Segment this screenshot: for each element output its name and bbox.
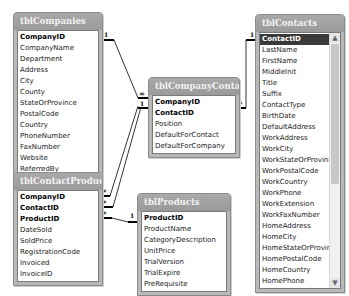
rel-companycontacts-contactproducts[interactable] xyxy=(102,106,148,207)
field-item[interactable]: HomePhone xyxy=(260,276,329,287)
field-item[interactable]: DefaultAddress xyxy=(260,122,329,133)
field-item[interactable]: ContactType xyxy=(260,100,329,111)
table-products[interactable]: tblProducts ProductID ProductName Catego… xyxy=(137,193,231,296)
vertical-scrollbar[interactable]: ▲ ▼ xyxy=(329,33,340,288)
field-item[interactable]: HomeCity xyxy=(260,232,329,243)
field-item[interactable]: TrialVersion xyxy=(142,257,226,268)
field-item[interactable]: TrialExpire xyxy=(142,268,226,279)
rel-products-contactproducts[interactable] xyxy=(102,218,140,222)
field-item[interactable]: CompanyName xyxy=(18,43,98,54)
table-title[interactable]: tblProducts xyxy=(138,194,230,211)
cardinality-many-label: ∞ xyxy=(139,91,145,97)
field-item[interactable]: City xyxy=(18,76,98,87)
field-item[interactable]: FirstName xyxy=(260,56,329,67)
field-list: CompanyID ContactID ProductID DateSold S… xyxy=(17,190,99,282)
field-item[interactable]: CompanyID xyxy=(153,97,235,108)
field-item[interactable]: ContactID xyxy=(153,108,235,119)
field-item[interactable]: ContactID xyxy=(18,203,98,214)
field-item[interactable]: LastName xyxy=(260,45,329,56)
table-title[interactable]: tblContacts xyxy=(256,15,344,32)
table-contact-products[interactable]: tblContactProducts CompanyID ContactID P… xyxy=(13,172,103,286)
field-item[interactable]: HomeAddress xyxy=(260,221,329,232)
field-item[interactable]: CompanyID xyxy=(18,192,98,203)
field-item[interactable]: WorkCountry xyxy=(260,177,329,188)
field-item[interactable]: WorkStateOrProvince xyxy=(260,155,329,166)
field-item[interactable]: WorkAddress xyxy=(260,133,329,144)
field-item[interactable]: ProductID xyxy=(18,214,98,225)
field-item-selected[interactable]: ContactID xyxy=(260,34,329,45)
field-item[interactable]: CompanyID xyxy=(18,32,98,43)
table-title[interactable]: tblCompanyContacts xyxy=(149,78,239,95)
cardinality-one-label: 1 xyxy=(130,213,134,219)
field-item[interactable]: Country xyxy=(18,120,98,131)
field-item[interactable]: PostalCode xyxy=(18,109,98,120)
field-item[interactable]: RegistrationCode xyxy=(18,247,98,258)
field-item[interactable]: FaxNumber xyxy=(18,142,98,153)
field-item[interactable]: UnitPrice xyxy=(142,246,226,257)
field-item[interactable]: PreRequisite xyxy=(142,279,226,290)
field-list: ContactID LastName FirstName MiddleInit … xyxy=(259,32,341,289)
field-item[interactable]: WorkFaxNumber xyxy=(260,210,329,221)
field-item[interactable]: Address xyxy=(18,65,98,76)
field-item[interactable]: ProductID xyxy=(142,213,226,224)
table-contacts[interactable]: tblContacts ContactID LastName FirstName… xyxy=(255,14,345,293)
scroll-down-icon[interactable]: ▼ xyxy=(330,278,340,288)
field-item[interactable]: WorkCity xyxy=(260,144,329,155)
field-item[interactable]: HomeCountry xyxy=(260,265,329,276)
cardinality-one-label: 1 xyxy=(250,32,254,38)
field-item[interactable]: WorkExtension xyxy=(260,199,329,210)
field-item[interactable]: Title xyxy=(260,78,329,89)
field-item[interactable]: MiddleInit xyxy=(260,67,329,78)
field-item[interactable]: County xyxy=(18,87,98,98)
field-item[interactable]: DateSold xyxy=(18,225,98,236)
field-item[interactable]: WorkPostalCode xyxy=(260,166,329,177)
field-item[interactable]: Invoiced xyxy=(18,258,98,269)
field-item[interactable]: StateOrProvince xyxy=(18,98,98,109)
scroll-up-icon[interactable]: ▲ xyxy=(330,33,340,43)
table-title[interactable]: tblCompanies xyxy=(14,13,102,30)
scroll-thumb[interactable] xyxy=(331,44,339,184)
field-item[interactable]: Department xyxy=(18,54,98,65)
field-item[interactable]: CategoryDescription xyxy=(142,235,226,246)
field-item[interactable]: Position xyxy=(153,119,235,130)
field-item[interactable]: Suffix xyxy=(260,89,329,100)
field-item[interactable]: SoldPrice xyxy=(18,236,98,247)
cardinality-one-label: 1 xyxy=(140,101,144,107)
table-title[interactable]: tblContactProducts xyxy=(14,173,102,190)
field-item[interactable]: DefaultForContact xyxy=(153,130,235,141)
table-companies[interactable]: tblCompanies CompanyID CompanyName Depar… xyxy=(13,12,103,181)
field-item[interactable]: DefaultForCompany xyxy=(153,141,235,152)
field-item[interactable]: HomeStateOrProvince xyxy=(260,243,329,254)
field-item[interactable]: ProductName xyxy=(142,224,226,235)
field-item[interactable]: PhoneNumber xyxy=(18,131,98,142)
field-list: CompanyID ContactID Position DefaultForC… xyxy=(152,95,236,154)
field-list: ProductID ProductName CategoryDescriptio… xyxy=(141,211,227,292)
table-company-contacts[interactable]: tblCompanyContacts CompanyID ContactID P… xyxy=(148,77,240,158)
field-item[interactable]: BirthDate xyxy=(260,111,329,122)
field-list: CompanyID CompanyName Department Address… xyxy=(17,30,99,177)
field-item[interactable]: Website xyxy=(18,153,98,164)
field-item[interactable]: HomePostalCode xyxy=(260,254,329,265)
field-item[interactable]: WorkPhone xyxy=(260,188,329,199)
field-item[interactable]: InvoiceID xyxy=(18,269,98,280)
cardinality-one-label: 1 xyxy=(104,32,108,38)
